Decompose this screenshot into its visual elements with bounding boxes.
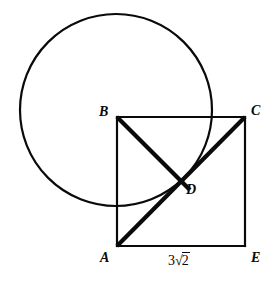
measure-coefficient: 3 [168, 253, 175, 268]
side-length-label: 3√2 [168, 254, 190, 268]
vertex-label-e: E [251, 251, 260, 265]
geometry-canvas [0, 0, 275, 281]
vertex-label-c: C [251, 104, 260, 118]
vertex-label-a: A [100, 251, 109, 265]
geometry-figure: B C D A E 3√2 [0, 0, 275, 281]
vertex-label-b: B [99, 105, 108, 119]
measure-radicand: 2 [182, 252, 190, 268]
segment-bd [117, 117, 190, 190]
vertex-label-d: D [186, 183, 196, 197]
